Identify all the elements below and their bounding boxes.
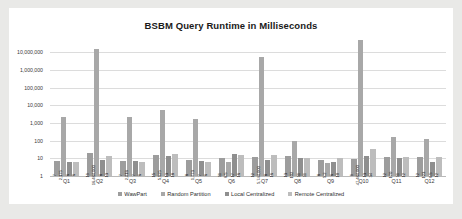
bar-value-label: 5.2 xyxy=(323,172,327,178)
bar[interactable]: 6 xyxy=(73,162,78,176)
bar[interactable]: 16,484,000 xyxy=(94,49,99,176)
legend-item[interactable]: Local Centralized xyxy=(225,191,275,197)
legend-item[interactable]: WawPart xyxy=(118,191,147,197)
bar-value-label: 12 xyxy=(435,173,439,177)
bar-value-label: 19 xyxy=(86,173,90,177)
y-axis-tick-label: 10,000 xyxy=(0,102,43,108)
plot-wrapper: 10,000,0001,000,000100,00010,0001,000100… xyxy=(50,44,446,176)
chart-screenshot: BSBM Query Runtime in Milliseconds 10,00… xyxy=(0,0,462,219)
bar-value-label: 12 xyxy=(416,173,420,177)
bar[interactable]: 16 xyxy=(238,155,243,176)
bar[interactable]: 12 xyxy=(436,157,441,176)
x-axis-label-q9: Q9 xyxy=(314,178,347,184)
legend-swatch-icon xyxy=(225,192,229,196)
bar-value-label: 8 xyxy=(98,174,102,176)
bar[interactable]: 12 xyxy=(403,157,408,176)
y-axis-tick-label: 1,000 xyxy=(0,120,43,126)
bar-value-label: 12 xyxy=(251,173,255,177)
bar[interactable]: 18 xyxy=(172,154,177,176)
bar-value-label: 7 xyxy=(131,174,135,176)
bar-value-label: 15 xyxy=(152,173,156,177)
x-axis-label-q11: Q11 xyxy=(380,178,413,184)
legend-swatch-icon xyxy=(288,192,292,196)
legend-swatch-icon xyxy=(118,192,122,196)
y-axis-tick-label: 100 xyxy=(0,138,43,144)
bar-value-label: 8 xyxy=(185,174,189,176)
bar-value-label: 12 xyxy=(383,173,387,177)
bar[interactable]: 102 xyxy=(292,141,297,176)
bar-value-label: 11 xyxy=(218,173,222,177)
bar-group-q5: 81,77376 xyxy=(182,44,215,176)
bar-value-label: 34 xyxy=(369,173,373,177)
bar[interactable]: 5,744,000 xyxy=(259,57,264,176)
legend-item[interactable]: Random Partition xyxy=(161,191,211,197)
legend-label: WawPart xyxy=(124,191,146,197)
bar-groups: 72,175661916,484,00081372,21876155,52513… xyxy=(50,44,446,176)
legend-swatch-icon xyxy=(161,192,165,196)
x-axis-label-q5: Q5 xyxy=(182,178,215,184)
legend-item[interactable]: Remote Centralized xyxy=(288,191,344,197)
bar-value-label: 10 xyxy=(336,173,340,177)
bar-value-label: 13 xyxy=(362,173,366,177)
bar-group-q4: 155,5251318 xyxy=(149,44,182,176)
x-axis-label-q8: Q8 xyxy=(281,178,314,184)
x-axis-label-q12: Q12 xyxy=(413,178,446,184)
legend-label: Remote Centralized xyxy=(295,191,344,197)
bar-group-q10: 947,484,0001334 xyxy=(347,44,380,176)
bar[interactable]: 47,484,000 xyxy=(358,40,363,176)
x-axis-label-q3: Q3 xyxy=(116,178,149,184)
bar[interactable]: 123 xyxy=(424,139,429,176)
bar-value-label: 11 xyxy=(395,173,399,177)
bar-group-q11: 121701112 xyxy=(380,44,413,176)
bar[interactable]: 16 xyxy=(271,155,276,176)
bar-value-label: 12 xyxy=(402,173,406,177)
bar-value-label: 16 xyxy=(237,173,241,177)
x-axis-label-q6: Q6 xyxy=(215,178,248,184)
chart-title: BSBM Query Runtime in Milliseconds xyxy=(9,20,453,31)
bar-value-label: 9 xyxy=(350,174,354,176)
bar-group-q3: 72,21876 xyxy=(116,44,149,176)
bar[interactable]: 2,218 xyxy=(127,117,132,176)
bar-value-label: 7 xyxy=(53,174,57,176)
bar-value-label: 7 xyxy=(197,174,201,176)
x-axis-label-q1: Q1 xyxy=(50,178,83,184)
bar-value-label: 8 xyxy=(263,174,267,176)
bar-value-label: 11 xyxy=(303,173,307,177)
bar[interactable]: 34 xyxy=(370,149,375,176)
bar[interactable]: 2,175 xyxy=(61,117,66,176)
bar[interactable]: 11 xyxy=(304,158,309,176)
x-axis-label-q10: Q10 xyxy=(347,178,380,184)
bar[interactable]: 10 xyxy=(337,158,342,176)
legend-label: Local Centralized xyxy=(231,191,274,197)
bar-value-label: 8 xyxy=(317,174,321,176)
bar[interactable]: 5,525 xyxy=(160,110,165,176)
x-axis-label-q2: Q2 xyxy=(83,178,116,184)
bar-group-q12: 121236.512 xyxy=(413,44,446,176)
bar[interactable]: 1,773 xyxy=(193,119,198,176)
bar-value-label: 17 xyxy=(230,173,234,177)
x-axis-label-q4: Q4 xyxy=(149,178,182,184)
bar-value-label: 6 xyxy=(72,174,76,176)
y-axis-tick-label: 10 xyxy=(0,155,43,161)
legend-label: Random Partition xyxy=(167,191,210,197)
y-axis-tick-label: 100,000 xyxy=(0,85,43,91)
bar-value-label: 13 xyxy=(105,173,109,177)
bar-value-label: 6 xyxy=(329,174,333,176)
chart-card: BSBM Query Runtime in Milliseconds 10,00… xyxy=(9,8,453,204)
bar-group-q6: 116.51716 xyxy=(215,44,248,176)
bar-value-label: 6.5 xyxy=(428,172,432,178)
bar-value-label: 7 xyxy=(119,174,123,176)
bar[interactable]: 13 xyxy=(106,156,111,176)
bar[interactable]: 170 xyxy=(391,137,396,176)
bar-group-q9: 85.2610 xyxy=(314,44,347,176)
bar-value-label: 13 xyxy=(284,173,288,177)
bar-group-q8: 131021111 xyxy=(281,44,314,176)
bar-value-label: 11 xyxy=(296,173,300,177)
bar[interactable]: 6 xyxy=(139,162,144,176)
bar-value-label: 16 xyxy=(270,173,274,177)
bar[interactable]: 6 xyxy=(205,162,210,176)
x-axis-labels: Q1Q2Q3Q4Q5Q6Q7Q8Q9Q10Q11Q12 xyxy=(50,178,446,184)
bar-group-q1: 72,17566 xyxy=(50,44,83,176)
bar-value-label: 18 xyxy=(171,173,175,177)
bar-value-label: 6 xyxy=(204,174,208,176)
